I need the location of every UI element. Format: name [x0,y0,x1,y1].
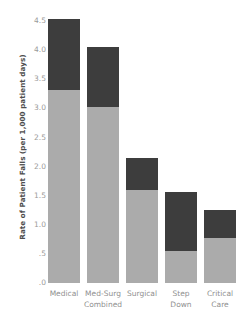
bar-segment-upper[interactable] [48,19,80,90]
y-tick-label: 1.0 [22,221,46,229]
bar-group[interactable] [87,0,119,325]
x-tick-label-line1: Surgical [127,289,157,298]
x-tick-label: StepDown [159,288,203,310]
plot-area [46,0,239,325]
y-tick-label: 2.5 [22,134,46,142]
y-tick-label: 4.0 [22,46,46,54]
y-axis-tick-labels: 4.54.03.53.02.52.01.51.0.5.0 [22,0,46,325]
x-tick-label-line2: Combined [81,299,125,310]
y-tick-label: 4.5 [22,17,46,25]
y-tick-label: 3.0 [22,104,46,112]
y-tick-label: 3.5 [22,75,46,83]
x-tick-label-line1: Med-Surg [85,289,121,298]
bar-segment-lower[interactable] [126,190,158,283]
x-tick-label-line2: Care [198,299,239,310]
bar-group[interactable] [204,0,236,325]
y-tick-label: 1.5 [22,192,46,200]
bar-segment-upper[interactable] [165,192,197,251]
bar-segment-upper[interactable] [204,210,236,238]
bar-group[interactable] [48,0,80,325]
stacked-bar-chart: Rate of Patient Falls (per 1,000 patient… [0,0,239,325]
x-tick-label: Surgical [120,288,164,299]
bar-segment-lower[interactable] [87,107,119,283]
x-tick-label-line1: Critical [207,289,233,298]
x-tick-label-line1: Step [172,289,189,298]
bar-segment-lower[interactable] [48,90,80,283]
bar-segment-lower[interactable] [204,238,236,283]
bar-segment-lower[interactable] [165,251,197,283]
y-tick-label: .5 [22,250,46,258]
bar-group[interactable] [126,0,158,325]
x-tick-label-line2: Down [159,299,203,310]
y-tick-label: 2.0 [22,163,46,171]
x-tick-label-line1: Medical [50,289,79,298]
x-axis-tick-labels: MedicalMed-SurgCombinedSurgicalStepDownC… [46,288,239,325]
bar-group[interactable] [165,0,197,325]
bar-segment-upper[interactable] [126,158,158,190]
x-tick-label: Medical [42,288,86,299]
y-tick-label: .0 [22,279,46,287]
x-tick-label: Med-SurgCombined [81,288,125,310]
x-tick-label: CriticalCare [198,288,239,310]
bar-segment-upper[interactable] [87,47,119,108]
